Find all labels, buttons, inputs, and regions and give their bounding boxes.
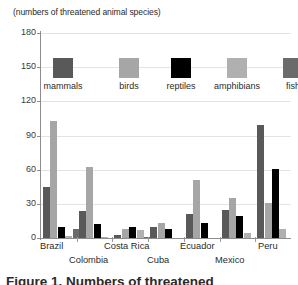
threatened-species-bar-chart: (numbers of threatened animal species) 0… bbox=[0, 0, 298, 285]
x-axis-label: Colombia bbox=[69, 255, 108, 265]
y-axis-tick-label: 120 bbox=[2, 95, 36, 105]
bar bbox=[94, 224, 101, 238]
legend-item: amphibians bbox=[206, 58, 268, 91]
y-axis-tick-label: 180 bbox=[2, 27, 36, 37]
bar bbox=[150, 227, 157, 238]
bar bbox=[222, 210, 229, 238]
y-axis-tick-label: 60 bbox=[2, 164, 36, 174]
bar bbox=[186, 214, 193, 238]
x-axis-label: Ecuador bbox=[180, 241, 215, 251]
bar bbox=[50, 121, 57, 238]
legend-label: fish bbox=[262, 81, 298, 91]
legend-label: reptiles bbox=[150, 81, 212, 91]
bar bbox=[201, 223, 208, 238]
bar bbox=[79, 211, 86, 238]
legend-swatch bbox=[283, 58, 298, 78]
y-axis-tick-mark bbox=[37, 101, 41, 102]
bar bbox=[265, 203, 272, 238]
bar bbox=[122, 229, 129, 238]
y-axis-tick-label: 150 bbox=[2, 61, 36, 71]
bar bbox=[86, 167, 93, 238]
y-axis-tick-mark bbox=[37, 170, 41, 171]
bar bbox=[272, 169, 279, 238]
y-axis-tick-mark bbox=[37, 33, 41, 34]
bar bbox=[165, 229, 172, 238]
bar bbox=[193, 180, 200, 238]
legend-item: fish bbox=[262, 58, 298, 91]
bar bbox=[137, 230, 144, 238]
bar bbox=[257, 125, 264, 238]
bar bbox=[101, 237, 108, 238]
bar bbox=[158, 223, 165, 238]
bar bbox=[58, 227, 65, 238]
y-axis-tick-mark bbox=[37, 136, 41, 137]
legend-item: mammals bbox=[32, 58, 94, 91]
x-axis-labels: BrazilColombiaCosta RicaCubaEcuadorMexic… bbox=[0, 241, 298, 271]
x-axis-label: Peru bbox=[258, 241, 278, 251]
bar bbox=[244, 233, 251, 238]
bar bbox=[43, 187, 50, 238]
x-axis-label: Cuba bbox=[147, 255, 169, 265]
legend-swatch bbox=[171, 58, 191, 78]
legend-swatch bbox=[119, 58, 139, 78]
chart-legend: mammalsbirdsreptilesamphibiansfish bbox=[41, 58, 291, 98]
bar bbox=[65, 236, 72, 238]
y-axis-tick-mark bbox=[37, 67, 41, 68]
x-axis-label: Brazil bbox=[40, 241, 63, 251]
bar bbox=[236, 216, 243, 238]
y-axis-tick-mark bbox=[37, 204, 41, 205]
legend-swatch bbox=[227, 58, 247, 78]
y-axis-tick-mark bbox=[37, 238, 41, 239]
figure-caption: Figure 1. Numbers of threatened bbox=[6, 275, 298, 285]
bar bbox=[129, 227, 136, 238]
bar bbox=[229, 198, 236, 238]
legend-item: reptiles bbox=[150, 58, 212, 91]
legend-label: amphibians bbox=[206, 81, 268, 91]
y-axis-tick-label: 30 bbox=[2, 198, 36, 208]
legend-label: mammals bbox=[32, 81, 94, 91]
y-axis-tick-label: 90 bbox=[2, 130, 36, 140]
bar bbox=[114, 235, 121, 238]
legend-swatch bbox=[53, 58, 73, 78]
bar bbox=[279, 229, 286, 238]
x-axis-label: Costa Rica bbox=[104, 241, 149, 251]
x-axis-label: Mexico bbox=[215, 255, 244, 265]
